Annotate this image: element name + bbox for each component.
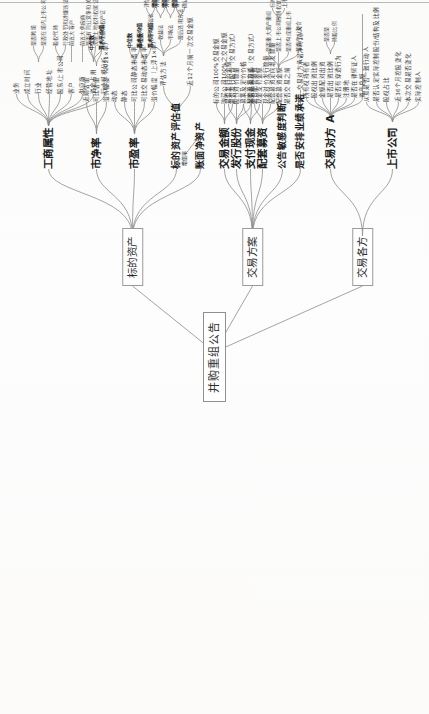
leaf-guquan-chuzi-bili[interactable]: 股权出资比例 (311, 61, 317, 98)
leaf-shiji-kongzhi-jiegou[interactable]: 是否认定实际控制股份/结构及比例 (373, 7, 379, 102)
mindmap-rotated-container: 并购重组公告 标的资产 工商属性 市净率 市盈率 标的资产评估值 账面净资产 增… (0, 0, 429, 714)
leaf-shifou-lvshi-zhengren[interactable]: 是否在律师证人 (351, 55, 357, 98)
leaf-shiji-kongzhiren[interactable]: 实际控制人 (415, 71, 421, 102)
connector-lines-gefang (0, 0, 429, 714)
leaf-zhucedi[interactable]: 注册地 (343, 79, 349, 98)
mindmap-canvas: 并购重组公告 标的资产 工商属性 市净率 市盈率 标的资产评估值 账面净资产 增… (0, 0, 429, 714)
node-jiaoyi-duifang-a[interactable]: 交易对方 A (325, 114, 336, 169)
leaf-suoyouquan-chiyouzhe[interactable]: 所有权持有者 (303, 61, 309, 98)
leaf-shifou-shi[interactable]: 是否是 (324, 26, 329, 42)
leaf-jine-peidui-chuzi[interactable]: 金额配对出资 (319, 61, 325, 98)
leaf-guquan-zhanbi[interactable]: 股权占比 (383, 77, 389, 102)
leaf-shifou-chuzi-bili[interactable]: 是否出资比例 (327, 61, 333, 98)
leaf-shifou-chuantou[interactable]: 是否有穿透行为 (335, 55, 341, 98)
leaf-benci-jiaoyi-bianhua[interactable]: 本次交易是否变化 (405, 52, 411, 102)
node-shangshi-gongsi[interactable]: 上市公司 (387, 127, 398, 169)
leaf-jin36geyue-konggu-bianhua[interactable]: 近36个月控股变化 (395, 51, 401, 102)
leaf-yizhi-xingdongren[interactable]: 从意是否一致行动人 (363, 46, 369, 102)
leaf-chigu-bili[interactable]: 持股比例 (332, 21, 337, 42)
